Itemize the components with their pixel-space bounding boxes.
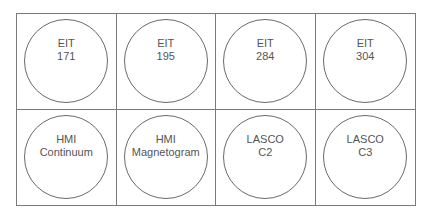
cell-hmi-continuum: HMI Continuum [17, 110, 117, 206]
disk-circle: HMI Magnetogram [124, 115, 208, 199]
label-line1: EIT [324, 37, 406, 50]
disk-circle: EIT 171 [24, 19, 108, 103]
disk-circle: EIT 195 [124, 19, 208, 103]
label-line2: 284 [224, 50, 306, 63]
disk-circle: LASCO C2 [223, 115, 307, 199]
cell-label: HMI Continuum [25, 133, 107, 159]
cell-lasco-c3: LASCO C3 [316, 110, 416, 206]
cell-label: LASCO C2 [224, 133, 306, 159]
disk-circle: EIT 284 [223, 19, 307, 103]
cell-eit-195: EIT 195 [117, 14, 217, 110]
label-line1: HMI [125, 133, 207, 146]
label-line2: C3 [324, 146, 406, 159]
cell-label: EIT 284 [224, 37, 306, 63]
instrument-grid: EIT 171 EIT 195 EIT 284 EIT 304 [16, 13, 416, 206]
label-line1: HMI [25, 133, 107, 146]
cell-eit-284: EIT 284 [216, 14, 316, 110]
label-line1: EIT [25, 37, 107, 50]
label-line1: EIT [224, 37, 306, 50]
cell-label: HMI Magnetogram [125, 133, 207, 159]
label-line2: Continuum [25, 146, 107, 159]
label-line1: LASCO [324, 133, 406, 146]
disk-circle: LASCO C3 [323, 115, 407, 199]
label-line1: LASCO [224, 133, 306, 146]
label-line2: C2 [224, 146, 306, 159]
label-line2: 171 [25, 50, 107, 63]
cell-label: EIT 171 [25, 37, 107, 63]
label-line2: 195 [125, 50, 207, 63]
label-line2: 304 [324, 50, 406, 63]
cell-label: EIT 304 [324, 37, 406, 63]
cell-label: EIT 195 [125, 37, 207, 63]
disk-circle: EIT 304 [323, 19, 407, 103]
label-line2: Magnetogram [125, 146, 207, 159]
label-line1: EIT [125, 37, 207, 50]
cell-eit-304: EIT 304 [316, 14, 416, 110]
cell-label: LASCO C3 [324, 133, 406, 159]
cell-lasco-c2: LASCO C2 [216, 110, 316, 206]
cell-hmi-magnetogram: HMI Magnetogram [117, 110, 217, 206]
cell-eit-171: EIT 171 [17, 14, 117, 110]
disk-circle: HMI Continuum [24, 115, 108, 199]
